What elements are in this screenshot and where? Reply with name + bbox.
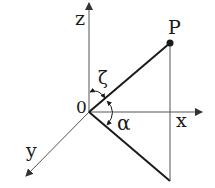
zeta-label: ζ bbox=[98, 69, 108, 87]
point-p-label: P bbox=[168, 18, 181, 37]
z-axis-label: z bbox=[75, 9, 85, 28]
coordinate-diagram: z x y 0 P ζ α bbox=[0, 0, 215, 188]
alpha-angle-arc bbox=[107, 101, 113, 125]
x-axis-label: x bbox=[176, 111, 187, 130]
origin-label: 0 bbox=[76, 99, 87, 116]
zeta-angle-arc bbox=[90, 91, 105, 98]
alpha-label: α bbox=[117, 113, 131, 133]
y-axis-label: y bbox=[26, 141, 37, 160]
point-p-dot bbox=[167, 40, 174, 47]
